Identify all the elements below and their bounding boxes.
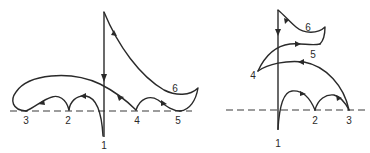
right-label-2: 2 xyxy=(312,115,318,126)
right-arrow-4-5-icon xyxy=(295,41,301,47)
right-path-3-4 xyxy=(258,61,349,110)
left-arrow-1-2-icon xyxy=(80,93,86,99)
left-path-1-2 xyxy=(69,96,103,136)
right-label-6: 6 xyxy=(305,22,311,33)
left-arrow-6-1-icon xyxy=(111,30,117,36)
left-path-2-3 xyxy=(26,96,69,111)
left-label-2: 2 xyxy=(65,115,71,126)
right-label-5: 5 xyxy=(310,49,316,60)
right-label-1: 1 xyxy=(275,138,281,149)
left-label-6: 6 xyxy=(172,83,178,94)
left-label-4: 4 xyxy=(134,115,140,126)
right-arrow-3-4-icon xyxy=(298,59,304,65)
right-label-4: 4 xyxy=(250,70,256,81)
left-label-5: 5 xyxy=(175,115,181,126)
left-path-3-4 xyxy=(13,76,136,111)
left-label-3: 3 xyxy=(23,115,29,126)
right-path-5-6-1 xyxy=(278,10,325,44)
left-label-1: 1 xyxy=(101,140,107,151)
right-diagram: 1 2 3 4 5 6 xyxy=(226,10,368,149)
right-path-2-3 xyxy=(315,95,349,110)
diagram-canvas: 3 2 1 4 5 6 1 2 3 4 5 6 xyxy=(0,0,370,153)
right-axis-arrow-icon xyxy=(275,29,281,36)
right-arrow-2-3-icon xyxy=(336,95,342,101)
left-axis-arrow-icon xyxy=(101,74,107,82)
left-diagram: 3 2 1 4 5 6 xyxy=(10,12,198,151)
left-path-4-5 xyxy=(136,98,180,111)
right-label-3: 3 xyxy=(346,115,352,126)
